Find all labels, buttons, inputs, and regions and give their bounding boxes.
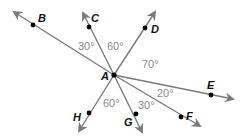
label-b: B: [38, 12, 46, 24]
angle-measure-bc: 30°: [78, 40, 95, 52]
label-d: D: [151, 23, 159, 35]
point-h: [87, 111, 92, 116]
label-h: H: [73, 111, 82, 123]
label-e: E: [207, 79, 215, 91]
point-f: [179, 115, 184, 120]
angle-measure-gh: 60°: [103, 97, 120, 109]
label-f: F: [186, 110, 193, 122]
point-e: [209, 93, 214, 98]
angle-measure-de: 70°: [142, 58, 159, 70]
point-c: [87, 25, 92, 30]
vertex-point-a: [111, 72, 116, 77]
point-b: [31, 23, 36, 28]
angle-measure-fg: 30°: [138, 99, 155, 111]
angle-diagram: BCDEFGHA 30°60°70°20°30°60°: [0, 0, 246, 137]
point-d: [143, 26, 148, 31]
label-c: C: [91, 12, 100, 24]
angle-measure-ef: 20°: [157, 87, 174, 99]
angle-measure-cd: 60°: [107, 40, 124, 52]
point-g: [134, 112, 139, 117]
label-g: G: [124, 116, 133, 128]
label-a: A: [100, 70, 109, 82]
